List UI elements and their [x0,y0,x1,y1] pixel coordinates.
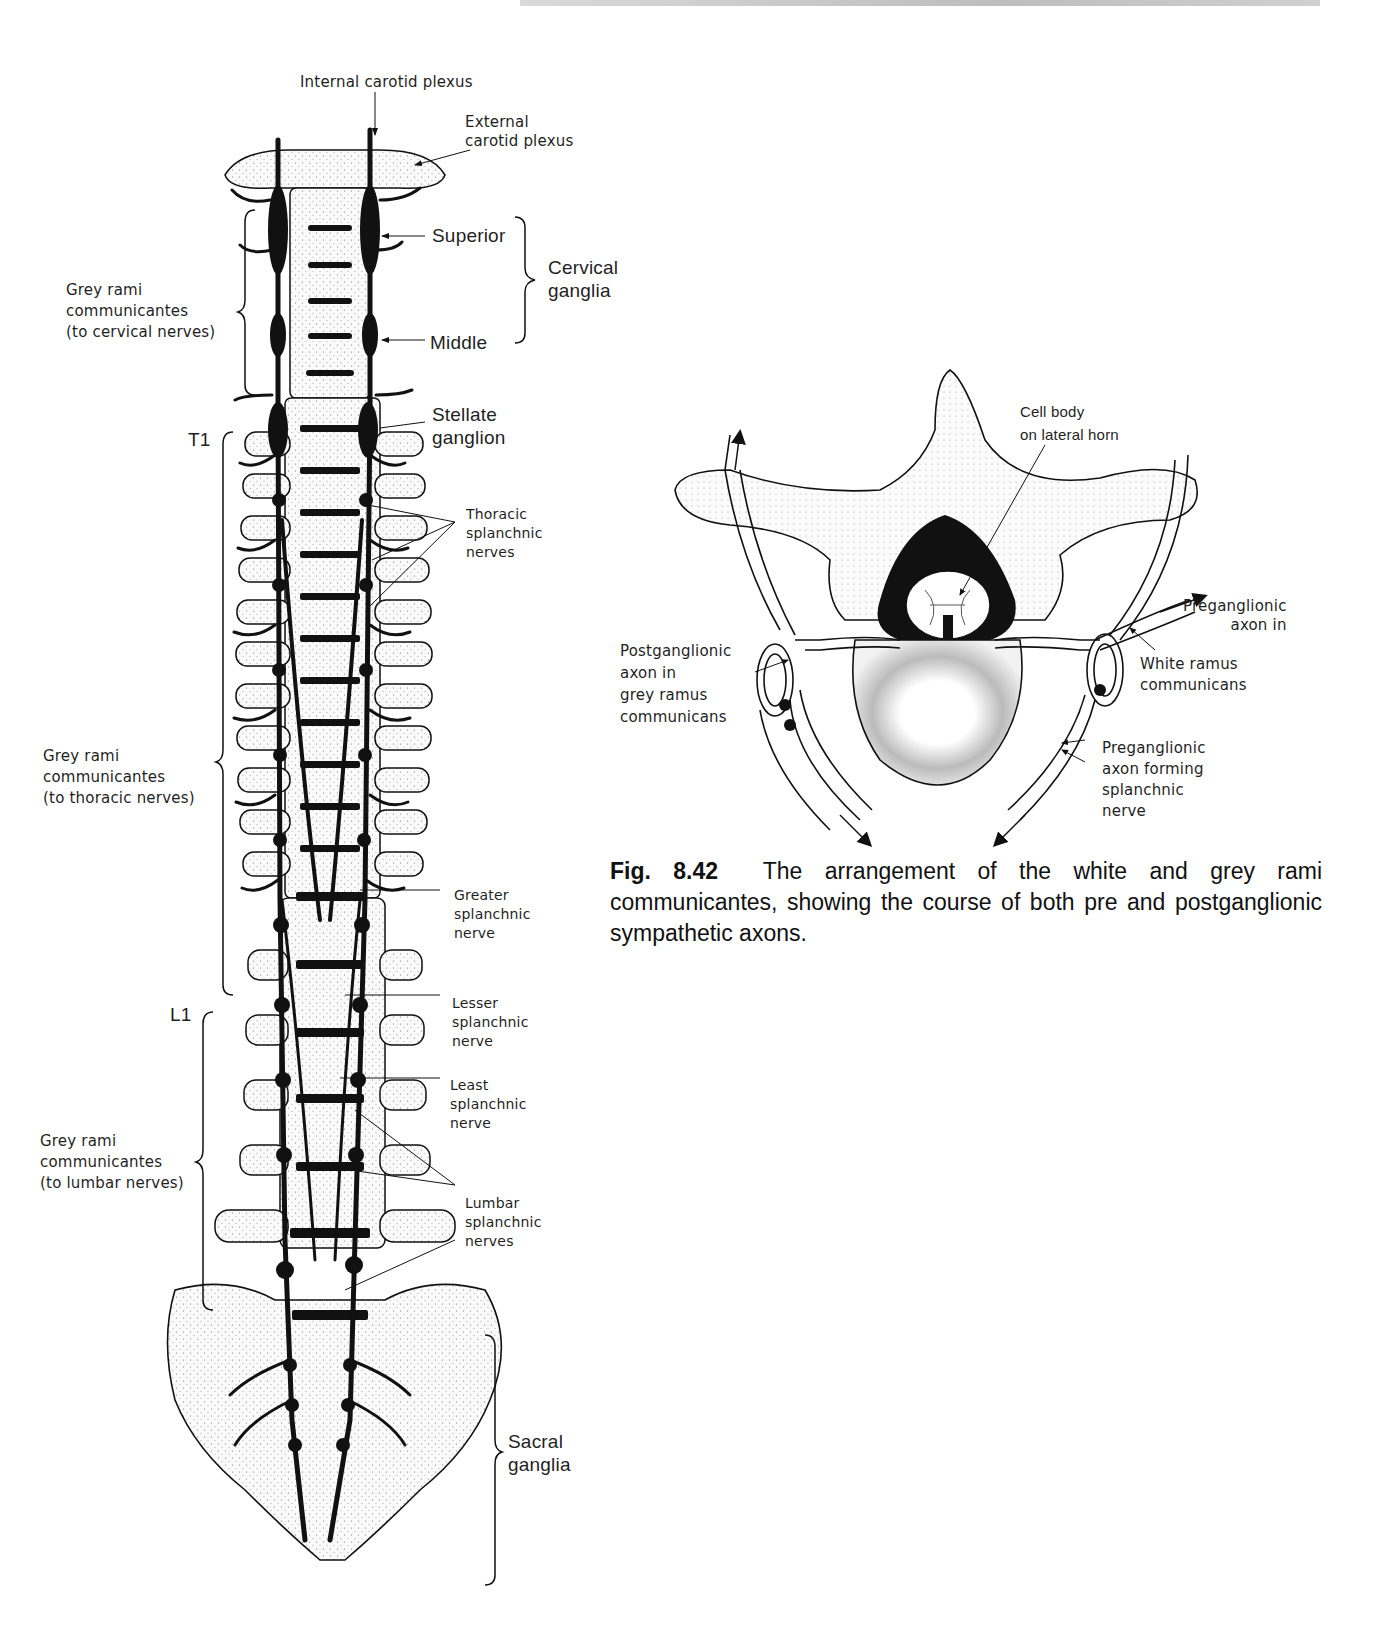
label-internal-carotid-plexus: Internal carotid plexus [300,72,473,93]
label-stellate-ganglion: Stellate ganglion [432,403,505,449]
label-grey-rami-thoracic: Grey rami communicantes (to thoracic ner… [43,746,195,809]
label-white-ramus-communicans: White ramus communicans [1140,654,1247,696]
label-thoracic-splanchnic-nerves: Thoracic splanchnic nerves [466,505,543,562]
label-preganglionic-axon-splanchnic: Preganglionic axon forming splanchnic ne… [1102,738,1206,822]
figure-number: Fig. 8.42 [610,858,718,884]
label-l1: L1 [170,1003,192,1026]
label-grey-rami-lumbar: Grey rami communicantes (to lumbar nerve… [40,1131,184,1194]
label-lesser-splanchnic-nerve: Lesser splanchnic nerve [452,994,529,1051]
label-greater-splanchnic-nerve: Greater splanchnic nerve [454,886,531,943]
label-t1: T1 [188,428,211,451]
label-cell-body-lateral-horn: Cell body on lateral horn [1020,400,1119,446]
label-postganglionic-axon: Postganglionic axon in grey ramus commun… [620,640,731,728]
label-cervical-ganglia: Cervical ganglia [548,256,618,302]
label-least-splanchnic-nerve: Least splanchnic nerve [450,1076,527,1133]
label-lumbar-splanchnic-nerves: Lumbar splanchnic nerves [465,1194,542,1251]
label-superior-ganglion: Superior [432,224,505,247]
label-grey-rami-cervical: Grey rami communicantes (to cervical ner… [66,280,215,343]
label-sacral-ganglia: Sacral ganglia [508,1430,571,1476]
figure-caption: Fig. 8.42 The arrangement of the white a… [610,856,1322,949]
sympathetic-trunk-diagram [0,0,620,1652]
label-preganglionic-axon-in: Preganglionic axon in [1183,597,1287,635]
label-middle-ganglion: Middle [430,331,487,354]
label-external-carotid-plexus: External carotid plexus [465,113,573,151]
running-head [520,0,1320,6]
